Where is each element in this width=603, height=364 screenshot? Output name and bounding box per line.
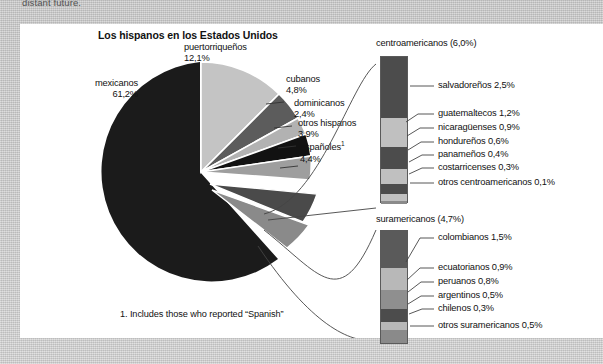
legend-otros-centroamericanos: otros centroamericanos 0,1% xyxy=(438,177,555,187)
centroamericanos-leader-lines xyxy=(376,38,603,228)
pie-label-otros-hispanos-text: otros hispanos xyxy=(298,118,356,128)
bar-segment-guatemaltecos xyxy=(381,118,407,147)
bar-segment-argentinos xyxy=(381,309,407,322)
pie-label-mexicanos-text: mexicanos xyxy=(95,78,138,88)
figure-footnote: 1. Includes those who reported “Spanish” xyxy=(120,309,284,319)
bar-segment-costarricenses xyxy=(381,194,407,201)
pie-label-espanoles-text: españoles xyxy=(300,142,341,152)
bar-segment-otros-centroamericanos xyxy=(381,201,407,204)
pie-label-cubanos: cubanos 4,8% xyxy=(286,74,320,97)
pie-label-cubanos-text: cubanos xyxy=(286,74,320,84)
pie-label-espanoles: españoles1 4,4% xyxy=(300,138,345,165)
pie-label-dominicanos-text: dominicanos xyxy=(294,98,345,108)
breakout-suramericanos: suramericanos (4,7%) col xyxy=(376,214,603,338)
breakout-centroamericanos: centroamericanos (6,0%) xyxy=(376,38,603,228)
breakout-centroamericanos-header: centroamericanos (6,0%) xyxy=(376,38,476,48)
breakout-suramericanos-header: suramericanos (4,7%) xyxy=(376,214,464,224)
bar-segment-colombianos xyxy=(381,231,407,268)
figure-panel: Los hispanos en los Estados Unidos xyxy=(20,24,603,338)
bar-segment-peruanos xyxy=(381,290,407,309)
truncated-body-text: distant future. xyxy=(22,0,81,8)
pie-label-mexicanos: mexicanos 61,2% xyxy=(42,78,138,101)
pie-label-cubanos-value: 4,8% xyxy=(286,85,307,95)
legend-chilenos: chilenos 0,3% xyxy=(438,303,494,313)
stacked-bar-suramericanos xyxy=(380,230,408,344)
bar-segment-ecuatorianos xyxy=(381,268,407,290)
pie-label-puertorriquenos-text: puertorriqueños xyxy=(184,42,247,52)
legend-panamenos: panameños 0,4% xyxy=(438,149,508,159)
legend-colombianos: colombianos 1,5% xyxy=(438,232,512,242)
legend-nicaraguenses: nicaragüenses 0,9% xyxy=(438,122,520,132)
legend-argentinos: argentinos 0,5% xyxy=(438,290,503,300)
pie-label-espanoles-value: 4,4% xyxy=(300,154,321,164)
pie-label-mexicanos-value: 61,2% xyxy=(112,89,138,99)
legend-salvadorenos: salvadoreños 2,5% xyxy=(438,80,515,90)
bar-segment-otros-suramericanos xyxy=(381,330,407,343)
legend-ecuatorianos: ecuatorianos 0,9% xyxy=(438,262,512,272)
bar-segment-hondurenos xyxy=(381,169,407,184)
pie-label-puertorriquenos-value: 12,1% xyxy=(184,53,210,63)
legend-guatemaltecos: guatemaltecos 1,2% xyxy=(438,108,520,118)
legend-costarricenses: costarricenses 0,3% xyxy=(438,162,519,172)
figure-title: Los hispanos en los Estados Unidos xyxy=(98,29,278,41)
bar-segment-nicaraguenses xyxy=(381,147,407,169)
pie-label-puertorriquenos: puertorriqueños 12,1% xyxy=(184,42,247,65)
legend-otros-suramericanos: otros suramericanos 0,5% xyxy=(438,320,542,330)
bar-segment-chilenos xyxy=(381,322,407,330)
figure-root: distant future. Los hispanos en los Esta… xyxy=(0,0,603,364)
footnote-marker: 1 xyxy=(341,140,344,147)
stacked-bar-centroamericanos xyxy=(380,56,408,203)
legend-peruanos: peruanos 0,8% xyxy=(438,276,499,286)
bar-segment-salvadorenos xyxy=(381,57,407,118)
legend-hondurenos: hondureños 0,6% xyxy=(438,136,509,146)
pie-chart: mexicanos 61,2% puertorriqueños 12,1% cu… xyxy=(60,44,360,304)
bar-segment-panamenos xyxy=(381,184,407,194)
